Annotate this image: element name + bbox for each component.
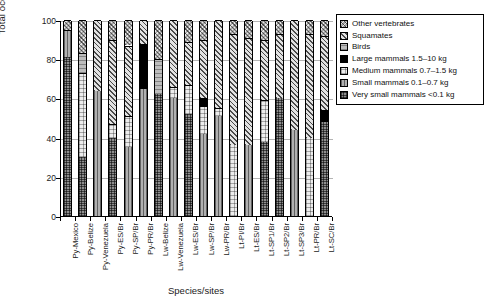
bar-segment-other	[200, 20, 207, 40]
bar-segment-squa	[291, 20, 298, 130]
bar[interactable]	[139, 21, 148, 217]
x-tick-label: Lt-SP3/Br	[297, 223, 306, 256]
y-tick-label: 20	[47, 173, 56, 183]
x-tick-mark	[120, 217, 121, 221]
legend-item[interactable]: Large mammals 1.5–10 kg	[340, 53, 480, 65]
bar-segment-small	[245, 145, 252, 216]
bar-segment-small	[215, 116, 222, 216]
bar[interactable]	[275, 21, 284, 217]
legend-item[interactable]: Other vertebrates	[340, 18, 480, 30]
y-tick-label: 80	[47, 55, 56, 65]
bar[interactable]	[229, 21, 238, 217]
bar-segment-squa	[245, 38, 252, 146]
bar[interactable]	[169, 21, 178, 217]
y-axis-ticks: 020406080100	[0, 21, 56, 217]
bar[interactable]	[290, 21, 299, 217]
x-tick-mark	[75, 217, 76, 221]
bar[interactable]	[244, 21, 253, 217]
bar-segment-other	[79, 20, 86, 53]
x-tick-label: Lt-SC/Br	[327, 223, 336, 252]
x-tick-label: Py-ES/Br	[116, 223, 125, 254]
bar-segment-squa	[109, 40, 116, 124]
bar[interactable]	[260, 21, 269, 217]
x-tick-mark	[181, 217, 182, 221]
bar-segment-other	[306, 20, 313, 34]
x-tick-label: Lt-ES/Br	[252, 223, 261, 252]
bar-segment-vsmall	[109, 138, 116, 216]
bar-segment-squa	[215, 20, 222, 108]
legend-item[interactable]: Birds	[340, 42, 480, 54]
bar-segment-vsmall	[261, 142, 268, 216]
bar[interactable]	[78, 21, 87, 217]
x-tick-mark	[60, 217, 61, 221]
x-tick-label: Py-Venezuela	[101, 223, 110, 270]
y-tick-label: 100	[42, 16, 56, 26]
legend-swatch-squa-icon	[340, 32, 348, 40]
x-tick-mark	[317, 217, 318, 221]
legend-item[interactable]: Very small mammals <0.1 kg	[340, 89, 480, 101]
legend-label: Very small mammals <0.1 kg	[352, 91, 454, 99]
bar-segment-small	[125, 147, 132, 216]
bar-segment-squa	[170, 20, 177, 87]
bar[interactable]	[320, 21, 329, 217]
bar-segment-med	[261, 100, 268, 141]
legend-item[interactable]: Small mammals 0.1–0.7 kg	[340, 77, 480, 89]
bar-segment-vsmall	[64, 57, 71, 216]
x-tick-mark	[226, 217, 227, 221]
bar-segment-med	[109, 124, 116, 138]
legend-label: Other vertebrates	[352, 20, 414, 28]
bar-segment-small	[94, 91, 101, 216]
bar[interactable]	[184, 21, 193, 217]
bar-segment-med	[215, 108, 222, 116]
bar-segment-bird	[155, 59, 162, 94]
bar-segment-med	[170, 87, 177, 99]
bar-segment-squa	[276, 34, 283, 99]
x-tick-mark	[90, 217, 91, 221]
bar[interactable]	[124, 21, 133, 217]
x-tick-mark	[272, 217, 273, 221]
bar-segment-vsmall	[155, 94, 162, 216]
x-axis-labels: Py-MexicoPy-BelizePy-VenezuelaPy-ES/BrPy…	[60, 223, 332, 293]
x-axis-title: Species/sites	[0, 285, 392, 296]
bar-segment-med	[230, 145, 237, 216]
bar-segment-squa	[125, 46, 132, 117]
chart-figure: Total occurrence (%) 020406080100 Py-Mex…	[0, 0, 488, 308]
bar[interactable]	[63, 21, 72, 217]
x-tick-label: Py-Belize	[86, 223, 95, 255]
x-tick-mark	[287, 217, 288, 221]
bar-segment-squa	[261, 40, 268, 101]
bar-segment-vsmall	[79, 157, 86, 216]
legend-item[interactable]: Squamates	[340, 30, 480, 42]
bar-segment-squa	[321, 36, 328, 110]
x-tick-label: Py-PR/Br	[146, 223, 155, 255]
bar-segment-other	[321, 20, 328, 36]
bar[interactable]	[199, 21, 208, 217]
legend-item[interactable]: Medium mammals 0.7–1.5 kg	[340, 65, 480, 77]
x-tick-mark	[302, 217, 303, 221]
bar-segment-large	[321, 110, 328, 122]
legend-swatch-vsmall-icon	[340, 91, 348, 99]
x-tick-label: Lw-PR/Br	[222, 223, 231, 256]
bar[interactable]	[214, 21, 223, 217]
bar[interactable]	[154, 21, 163, 217]
legend-label: Medium mammals 0.7–1.5 kg	[352, 67, 457, 75]
bar-segment-squa	[185, 42, 192, 85]
bar-segment-squa	[140, 20, 147, 44]
bar-segment-vsmall	[321, 122, 328, 216]
x-axis-ticks	[60, 217, 332, 221]
y-tick-label: 60	[47, 94, 56, 104]
x-tick-label: Lw-Venezuela	[176, 223, 185, 271]
bar-segment-other	[125, 20, 132, 45]
bar-segment-squa	[306, 34, 313, 138]
bar-group	[60, 21, 332, 217]
bar-segment-small	[200, 134, 207, 216]
bar[interactable]	[305, 21, 314, 217]
bar-segment-large	[200, 98, 207, 106]
x-tick-mark	[332, 217, 333, 221]
bar[interactable]	[108, 21, 117, 217]
x-tick-label: Lw-SP/Br	[207, 223, 216, 255]
bar-segment-vsmall	[185, 114, 192, 216]
x-tick-mark	[196, 217, 197, 221]
bar[interactable]	[93, 21, 102, 217]
bar-segment-large	[140, 44, 147, 89]
